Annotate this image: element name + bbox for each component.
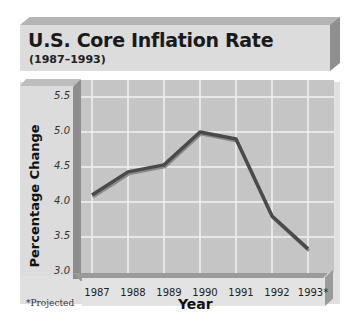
y-tick-label: 4.0 xyxy=(44,195,70,206)
y-tick-label: 5.5 xyxy=(44,90,70,101)
y-axis-label: Percentage Change xyxy=(27,116,42,276)
x-axis-label: Year xyxy=(178,296,213,312)
series-line-shadow xyxy=(93,134,309,251)
y-tick-label: 3.5 xyxy=(44,230,70,241)
footnote: *Projected xyxy=(26,298,74,308)
x-tick-label: 1988 xyxy=(113,287,153,298)
x-tick-label: 1987 xyxy=(77,287,117,298)
x-tick-label: 1992 xyxy=(257,287,297,298)
y-tick-label: 5.0 xyxy=(44,125,70,136)
y-tick-label: 3.0 xyxy=(44,265,70,276)
x-tick-label: 1993* xyxy=(293,287,333,298)
x-tick-label: 1991 xyxy=(221,287,261,298)
y-tick-label: 4.5 xyxy=(44,160,70,171)
